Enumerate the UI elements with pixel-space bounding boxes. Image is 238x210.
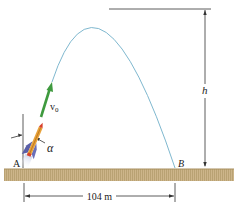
point-a-label: A [13, 158, 21, 169]
ground [4, 169, 234, 181]
rocket-icon [17, 120, 48, 170]
velocity-label: v0 [50, 101, 59, 114]
angle-arrow-icon [11, 134, 45, 144]
point-b-label: B [178, 158, 184, 169]
trajectory-curve [52, 28, 175, 168]
height-label: h [202, 84, 208, 96]
distance-label: 104 m [87, 191, 113, 202]
projectile-diagram: v0 α A B h 104 m [0, 0, 238, 210]
height-dimension [109, 9, 211, 167]
angle-label: α [47, 141, 54, 155]
